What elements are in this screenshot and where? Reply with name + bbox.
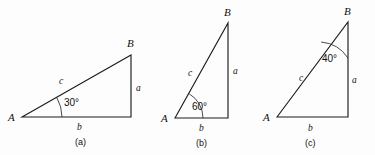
side-label-c-b: b <box>308 123 313 133</box>
side-label-b-a: a <box>233 66 238 76</box>
angle-label-c: 40° <box>322 53 337 64</box>
vertex-label-b-A: A <box>160 112 168 124</box>
panel-caption-b: (b) <box>196 138 207 148</box>
vertex-label-a-A: A <box>7 111 15 123</box>
angle-label-a: 30° <box>64 97 79 108</box>
figure-container: A B c a b 30° (a) A B c a b 60° (b) A B <box>0 0 375 155</box>
angle-arc-a <box>57 98 62 118</box>
vertex-label-a-B: B <box>127 37 134 49</box>
triangle-panel-c: A B c a b 40° (c) <box>262 5 357 148</box>
triangle-c-outline <box>277 22 348 117</box>
triangle-panel-a: A B c a b 30° (a) <box>7 37 141 147</box>
side-label-b-c: c <box>188 68 193 78</box>
side-label-a-b: b <box>77 122 82 132</box>
triangle-panel-b: A B c a b 60° (b) <box>160 6 238 148</box>
panel-caption-a: (a) <box>75 137 86 147</box>
vertex-label-c-B: B <box>344 5 351 17</box>
panel-caption-c: (c) <box>305 138 316 148</box>
side-label-c-a: a <box>352 75 357 85</box>
vertex-label-b-B: B <box>224 6 231 18</box>
angle-label-b: 60° <box>192 101 207 112</box>
vertex-label-c-A: A <box>262 111 270 123</box>
side-label-b-b: b <box>199 123 204 133</box>
side-label-a-c: c <box>59 76 64 86</box>
right-triangles-figure: A B c a b 30° (a) A B c a b 60° (b) A B <box>0 0 375 155</box>
side-label-a-a: a <box>136 83 141 93</box>
